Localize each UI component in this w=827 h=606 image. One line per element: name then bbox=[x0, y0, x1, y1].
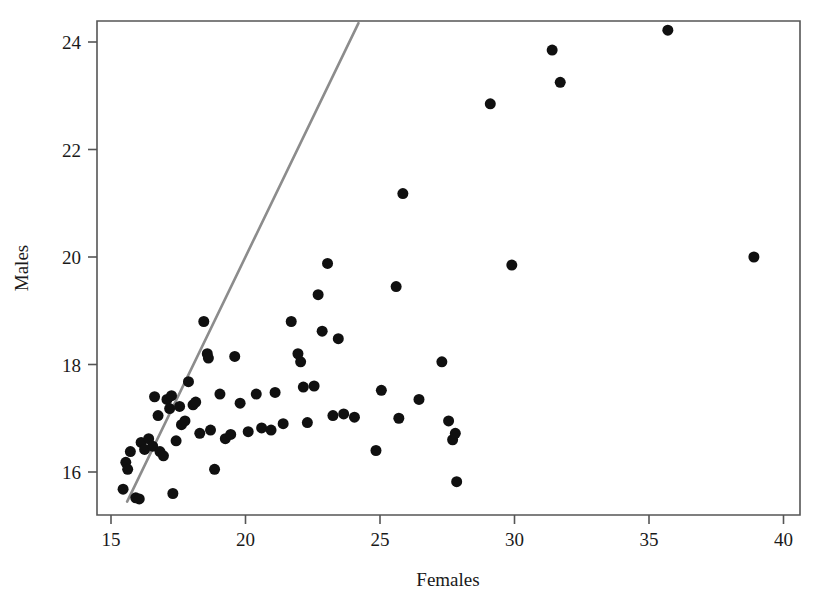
data-point bbox=[443, 415, 454, 426]
data-point bbox=[338, 408, 349, 419]
data-point bbox=[118, 484, 129, 495]
data-point bbox=[662, 25, 673, 36]
data-point bbox=[309, 381, 320, 392]
data-point bbox=[313, 289, 324, 300]
data-point bbox=[397, 188, 408, 199]
data-point bbox=[748, 252, 759, 263]
scatter-plot-figure: 152025303540 1618202224 Females Males bbox=[0, 0, 827, 606]
data-point bbox=[391, 281, 402, 292]
data-point bbox=[134, 493, 145, 504]
data-point bbox=[174, 401, 185, 412]
data-point bbox=[506, 260, 517, 271]
data-point bbox=[166, 390, 177, 401]
data-point bbox=[153, 410, 164, 421]
data-point bbox=[149, 391, 160, 402]
data-point bbox=[171, 435, 182, 446]
data-point bbox=[414, 394, 425, 405]
data-point bbox=[302, 417, 313, 428]
data-point bbox=[125, 446, 136, 457]
data-point bbox=[327, 410, 338, 421]
data-point bbox=[209, 464, 220, 475]
x-tick-label: 40 bbox=[774, 529, 793, 550]
data-point bbox=[205, 425, 216, 436]
data-point bbox=[251, 389, 262, 400]
y-axis-ticks: 1618202224 bbox=[62, 32, 97, 483]
data-point bbox=[167, 488, 178, 499]
data-point bbox=[298, 382, 309, 393]
data-point bbox=[122, 464, 133, 475]
plot-canvas: 152025303540 1618202224 Females Males bbox=[0, 0, 827, 606]
data-point bbox=[214, 389, 225, 400]
data-point bbox=[555, 77, 566, 88]
y-tick-label: 16 bbox=[62, 462, 81, 483]
data-point bbox=[376, 385, 387, 396]
y-axis-title: Males bbox=[11, 245, 32, 291]
data-point bbox=[198, 316, 209, 327]
x-axis-ticks: 152025303540 bbox=[102, 515, 794, 550]
y-tick-label: 22 bbox=[62, 140, 81, 161]
data-point bbox=[450, 428, 461, 439]
x-tick-label: 15 bbox=[102, 529, 121, 550]
data-point bbox=[190, 397, 201, 408]
x-tick-label: 30 bbox=[505, 529, 524, 550]
data-point bbox=[194, 428, 205, 439]
data-point bbox=[393, 413, 404, 424]
data-point bbox=[547, 45, 558, 56]
data-point bbox=[485, 98, 496, 109]
y-tick-label: 20 bbox=[62, 247, 81, 268]
x-tick-label: 35 bbox=[640, 529, 659, 550]
data-point bbox=[203, 353, 214, 364]
data-point bbox=[370, 445, 381, 456]
x-tick-label: 20 bbox=[236, 529, 255, 550]
data-point bbox=[229, 351, 240, 362]
data-point bbox=[243, 426, 254, 437]
data-point bbox=[183, 376, 194, 387]
data-point bbox=[322, 258, 333, 269]
data-points bbox=[118, 25, 760, 505]
data-point bbox=[164, 403, 175, 414]
y-tick-label: 18 bbox=[62, 355, 81, 376]
data-point bbox=[286, 316, 297, 327]
data-point bbox=[225, 429, 236, 440]
data-point bbox=[278, 418, 289, 429]
x-tick-label: 25 bbox=[371, 529, 390, 550]
data-point bbox=[333, 333, 344, 344]
data-point bbox=[436, 356, 447, 367]
data-point bbox=[179, 415, 190, 426]
y-tick-label: 24 bbox=[62, 32, 82, 53]
data-point bbox=[158, 450, 169, 461]
data-point bbox=[266, 425, 277, 436]
x-axis-title: Females bbox=[416, 569, 479, 590]
data-point bbox=[270, 387, 281, 398]
data-point bbox=[235, 398, 246, 409]
data-point bbox=[256, 422, 267, 433]
data-point bbox=[295, 356, 306, 367]
data-point bbox=[317, 326, 328, 337]
data-point bbox=[349, 412, 360, 423]
data-point bbox=[451, 476, 462, 487]
